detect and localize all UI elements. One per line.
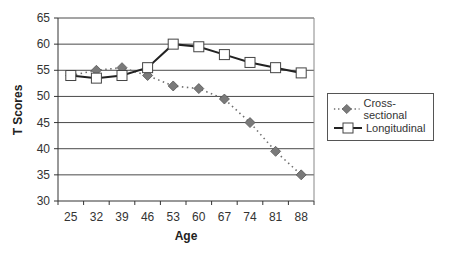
legend-label: Longitudinal	[366, 122, 425, 134]
y-axis-title: T Scores	[11, 84, 25, 135]
data-point	[168, 39, 178, 49]
data-point	[245, 57, 255, 67]
x-tick-label: 67	[218, 210, 232, 224]
dotted-diamond-marker-icon	[333, 103, 361, 115]
data-point	[143, 63, 153, 73]
y-tick-label: 30	[37, 194, 51, 208]
data-point	[168, 81, 178, 91]
series-layer	[66, 39, 306, 180]
y-axis-ticks: 3035404550556065	[37, 11, 58, 208]
x-tick-label: 39	[115, 210, 129, 224]
y-tick-label: 45	[37, 116, 51, 130]
data-point	[271, 63, 281, 73]
y-tick-label: 60	[37, 37, 51, 51]
data-point	[296, 68, 306, 78]
x-tick-label: 46	[141, 210, 155, 224]
legend-label: Cross-sectional	[364, 97, 434, 121]
x-tick-label: 32	[90, 210, 104, 224]
data-point	[194, 84, 204, 94]
legend-item-cross-sectional: Cross-sectional	[328, 100, 433, 118]
x-axis-title: Age	[175, 229, 198, 243]
y-tick-label: 35	[37, 168, 51, 182]
data-point	[271, 146, 281, 156]
series-longitudinal	[66, 39, 306, 83]
x-tick-label: 25	[64, 210, 78, 224]
y-tick-label: 65	[37, 11, 51, 25]
chart-legend: Cross-sectional Longitudinal	[327, 93, 434, 141]
solid-square-marker-icon	[333, 122, 363, 134]
legend-item-longitudinal: Longitudinal	[328, 119, 425, 137]
data-point	[91, 73, 101, 83]
x-tick-label: 88	[295, 210, 309, 224]
data-point	[296, 170, 306, 180]
x-axis-ticks: 25323946536067748188	[58, 201, 314, 224]
data-point	[194, 42, 204, 52]
x-tick-label: 60	[192, 210, 206, 224]
data-point	[219, 94, 229, 104]
data-point	[117, 71, 127, 81]
y-tick-label: 50	[37, 89, 51, 103]
y-tick-label: 55	[37, 63, 51, 77]
x-tick-label: 81	[269, 210, 283, 224]
data-point	[66, 71, 76, 81]
x-tick-label: 74	[243, 210, 257, 224]
data-point	[219, 50, 229, 60]
y-tick-label: 40	[37, 142, 51, 156]
data-point	[245, 118, 255, 128]
x-tick-label: 53	[167, 210, 181, 224]
